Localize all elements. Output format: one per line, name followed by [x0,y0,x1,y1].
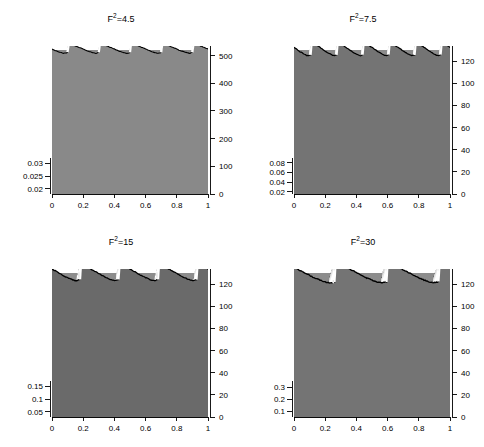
right-tick-label: 120 [461,280,475,289]
trace-fill [52,264,208,447]
x-tick-label: 0.2 [78,201,90,210]
trace-fill [294,262,450,447]
x-tick-label: 1 [448,424,453,433]
panel-f2-30: F2=30 00.20.40.60.810204060801001200.10.… [242,223,484,446]
surface-mesh [294,42,450,224]
trace-fill [52,44,208,224]
x-tick-label: 1 [206,424,211,433]
x-tick-label: 0.8 [171,201,183,210]
surface-mesh [52,44,208,224]
right-tick-label: 60 [461,347,470,356]
left-tick-label: 0.04 [269,178,285,187]
right-tick-label: 20 [461,168,470,177]
x-tick-label: 0.6 [382,201,394,210]
x-tick-label: 0 [50,201,55,210]
panel-f2-4p5: F2=4.5 00.20.40.60.8101002003004005000.0… [0,0,242,223]
plot-3: 00.20.40.60.810204060801001200.10.20.3 [242,223,484,446]
right-tick-label: 100 [219,302,233,311]
right-tick-label: 80 [461,324,470,333]
right-tick-label: 100 [219,162,233,171]
plot-0: 00.20.40.60.8101002003004005000.020.0250… [0,0,242,223]
panel-f2-15: F2=15 00.20.40.60.810204060801001200.050… [0,223,242,446]
left-tick-label: 0.06 [269,168,285,177]
x-tick-label: 0.2 [320,201,332,210]
x-tick-label: 0 [292,424,297,433]
x-tick-label: 0.6 [140,424,152,433]
trace-fill [294,42,450,224]
right-tick-label: 0 [461,413,466,422]
right-tick-label: 400 [219,79,233,88]
x-tick-label: 0.2 [78,424,90,433]
surface-mesh [294,262,450,447]
left-tick-label: 0.02 [27,185,43,194]
right-tick-label: 40 [219,369,228,378]
right-tick-label: 100 [461,79,475,88]
plot-2: 00.20.40.60.810204060801001200.050.10.15 [0,223,242,446]
right-tick-label: 40 [461,369,470,378]
left-tick-label: 0.3 [274,383,286,392]
left-tick-label: 0.1 [274,407,286,416]
x-tick-label: 0.4 [109,201,121,210]
surface-mesh [52,264,208,447]
left-tick-label: 0.1 [32,395,44,404]
x-tick-label: 0.4 [351,201,363,210]
right-tick-label: 0 [461,190,466,199]
right-tick-label: 0 [219,190,224,199]
x-tick-label: 0.6 [382,424,394,433]
x-tick-label: 0.2 [320,424,332,433]
right-tick-label: 0 [219,413,224,422]
right-tick-label: 20 [461,391,470,400]
left-tick-label: 0.025 [23,172,44,181]
right-tick-label: 40 [461,146,470,155]
x-tick-label: 0.8 [413,201,425,210]
x-tick-label: 0.6 [140,201,152,210]
right-tick-label: 80 [461,101,470,110]
right-tick-label: 60 [219,347,228,356]
left-tick-label: 0.02 [269,188,285,197]
plot-1: 00.20.40.60.810204060801001200.020.040.0… [242,0,484,223]
x-tick-label: 1 [448,201,453,210]
left-tick-label: 0.2 [274,395,286,404]
x-tick-label: 0.4 [351,424,363,433]
x-tick-label: 0.8 [171,424,183,433]
right-tick-label: 100 [461,302,475,311]
x-tick-label: 0.8 [413,424,425,433]
figure-root: F2=4.5 00.20.40.60.8101002003004005000.0… [0,0,484,447]
x-tick-label: 0.4 [109,424,121,433]
panel-f2-7p5: F2=7.5 00.20.40.60.810204060801001200.02… [242,0,484,223]
x-tick-label: 0 [292,201,297,210]
right-tick-label: 200 [219,135,233,144]
x-tick-label: 0 [50,424,55,433]
right-tick-label: 120 [219,280,233,289]
right-tick-label: 60 [461,124,470,133]
left-tick-label: 0.15 [27,382,43,391]
left-tick-label: 0.03 [27,159,43,168]
left-tick-label: 0.05 [27,408,43,417]
x-tick-label: 1 [206,201,211,210]
right-tick-label: 500 [219,52,233,61]
right-tick-label: 80 [219,324,228,333]
right-tick-label: 300 [219,107,233,116]
right-tick-label: 20 [219,391,228,400]
left-tick-label: 0.08 [269,159,285,168]
right-tick-label: 120 [461,57,475,66]
